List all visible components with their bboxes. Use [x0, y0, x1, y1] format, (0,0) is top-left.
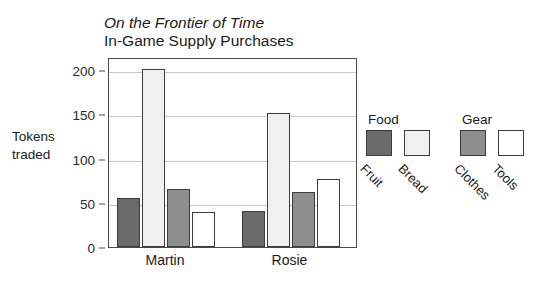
bar-rosie-clothes[interactable] [292, 192, 315, 247]
legend-label-bread: Bread [395, 161, 430, 196]
y-tick-label: 100 [72, 152, 95, 167]
y-tick-label: 0 [87, 241, 95, 256]
chart-subtitle: In-Game Supply Purchases [104, 32, 294, 50]
y-axis-title-line2: traded [12, 146, 55, 164]
bar-rosie-tools[interactable] [317, 179, 340, 247]
y-tick-mark [99, 203, 105, 204]
legend-group-title: Gear [462, 112, 492, 127]
y-tick-label: 200 [72, 64, 95, 79]
chart-legend: FoodFruitBreadGearClothesTools [366, 112, 547, 222]
x-category-label-martin: Martin [146, 252, 185, 268]
legend-label-tools: Tools [489, 161, 521, 193]
plot-frame [108, 58, 357, 248]
y-tick-mark [99, 248, 105, 249]
bar-martin-fruit[interactable] [117, 198, 140, 247]
y-tick-label: 50 [80, 196, 95, 211]
chart-title-block: On the Frontier of Time In-Game Supply P… [104, 14, 294, 51]
bar-rosie-fruit[interactable] [242, 211, 265, 247]
plot-area [109, 59, 356, 247]
legend-swatch-fruit[interactable] [366, 130, 392, 156]
legend-label-clothes: Clothes [451, 161, 493, 203]
bar-martin-clothes[interactable] [167, 189, 190, 247]
x-category-label-rosie: Rosie [272, 252, 308, 268]
bar-rosie-bread[interactable] [267, 113, 290, 247]
bar-martin-tools[interactable] [192, 212, 215, 247]
y-tick-label: 150 [72, 108, 95, 123]
legend-swatch-tools[interactable] [498, 130, 524, 156]
page-title: On the Frontier of Time [104, 14, 294, 32]
bar-martin-bread[interactable] [142, 69, 165, 248]
legend-swatch-clothes[interactable] [460, 130, 486, 156]
legend-swatch-bread[interactable] [404, 130, 430, 156]
y-axis-title: Tokens traded [12, 128, 55, 164]
y-tick-mark [99, 115, 105, 116]
y-axis-title-line1: Tokens [12, 128, 55, 146]
y-axis: Tokens traded 050100150200 [0, 0, 108, 287]
legend-group-title: Food [368, 112, 399, 127]
legend-label-fruit: Fruit [357, 161, 386, 190]
y-tick-mark [99, 71, 105, 72]
y-tick-mark [99, 159, 105, 160]
